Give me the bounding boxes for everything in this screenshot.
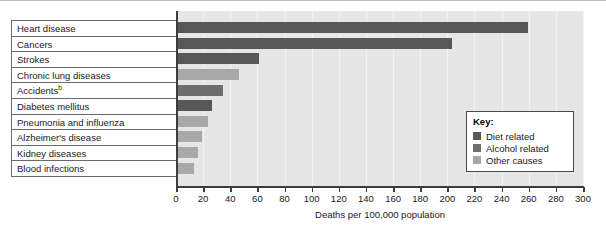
gridline (583, 11, 584, 186)
bar (178, 131, 202, 142)
category-label-row: Heart disease (12, 21, 176, 37)
x-axis-tick-label: 180 (412, 193, 428, 204)
legend-entry-label: Other causes (486, 155, 543, 166)
bar (178, 38, 452, 49)
x-axis-tick (583, 187, 585, 192)
category-label-table: Heart diseaseCancersStrokesChronic lung … (11, 20, 177, 177)
x-axis-tick (420, 187, 422, 192)
x-axis-tick (393, 187, 395, 192)
x-axis-tick (447, 187, 449, 192)
bar (178, 163, 194, 174)
category-label-row: Blood infections (12, 161, 176, 177)
x-axis-tick-label: 160 (385, 193, 401, 204)
x-axis-tick (556, 187, 558, 192)
category-footnote-marker: b (58, 84, 62, 91)
category-label-text: Chronic lung diseases (17, 70, 110, 81)
x-axis-tick-label: 220 (467, 193, 483, 204)
x-axis-tick-label: 300 (575, 193, 591, 204)
x-axis-tick-label: 120 (331, 193, 347, 204)
bar (178, 100, 212, 111)
category-label-row: Alzheimer's disease (12, 130, 176, 146)
category-label-text: Kidney diseases (17, 148, 86, 159)
x-axis-tick (203, 187, 205, 192)
category-label-text: Strokes (17, 54, 49, 65)
bar (178, 147, 198, 158)
legend-box: Key: Diet relatedAlcohol relatedOther ca… (466, 111, 574, 172)
x-axis-tick-label: 240 (494, 193, 510, 204)
category-label-row: Pneumonia and influenza (12, 115, 176, 131)
y-axis-line (176, 11, 178, 187)
x-axis-tick-label: 140 (358, 193, 374, 204)
bar (178, 116, 208, 127)
x-axis-tick-label: 260 (521, 193, 537, 204)
category-label-text: Cancers (17, 39, 52, 50)
category-label-text: Accidents (17, 85, 58, 96)
bar (178, 22, 528, 33)
legend-swatch (473, 156, 481, 164)
x-axis-tick-label: 280 (548, 193, 564, 204)
bar (178, 69, 239, 80)
x-axis-tick-label: 60 (252, 193, 263, 204)
x-axis-tick (230, 187, 232, 192)
category-label-text: Pneumonia and influenza (17, 117, 124, 128)
legend-title: Key: (473, 116, 567, 127)
category-label-row: Cancers (12, 37, 176, 53)
legend-swatch (473, 132, 481, 140)
category-label-text: Diabetes mellitus (17, 101, 89, 112)
category-label-row: Kidney diseases (12, 146, 176, 162)
category-label-text: Heart disease (17, 23, 76, 34)
x-axis-tick-label: 40 (225, 193, 236, 204)
x-axis-tick (474, 187, 476, 192)
x-axis-tick-label: 0 (173, 193, 178, 204)
x-axis-line (176, 186, 584, 188)
legend-swatch (473, 144, 481, 152)
category-label-row: Chronic lung diseases (12, 68, 176, 84)
legend-entry-label: Diet related (486, 131, 535, 142)
x-axis-tick (366, 187, 368, 192)
bar (178, 85, 223, 96)
x-axis-tick (176, 187, 178, 192)
legend-entry-label: Alcohol related (486, 143, 549, 154)
legend-entry: Diet related (473, 130, 567, 142)
x-axis-tick-label: 20 (198, 193, 209, 204)
x-axis-tick-label: 200 (439, 193, 455, 204)
category-label-row: Diabetes mellitus (12, 99, 176, 115)
x-axis-tick (502, 187, 504, 192)
legend-entry: Alcohol related (473, 142, 567, 154)
x-axis-tick (257, 187, 259, 192)
x-axis-tick-label: 80 (279, 193, 290, 204)
legend-entry: Other causes (473, 154, 567, 166)
category-label-row: Strokes (12, 52, 176, 68)
bar (178, 53, 259, 64)
category-label-text: Blood infections (17, 163, 84, 174)
category-label-row: Accidentsb (12, 83, 176, 99)
x-axis-tick (312, 187, 314, 192)
x-axis-tick-label: 100 (304, 193, 320, 204)
category-label-text: Alzheimer's disease (17, 132, 101, 143)
legend-entries: Diet relatedAlcohol relatedOther causes (473, 130, 567, 166)
x-axis-title: Deaths per 100,000 population (176, 209, 584, 220)
x-axis-tick (339, 187, 341, 192)
x-axis-tick (285, 187, 287, 192)
bar-chart-figure: Heart diseaseCancersStrokesChronic lung … (0, 0, 606, 229)
x-axis-tick (529, 187, 531, 192)
